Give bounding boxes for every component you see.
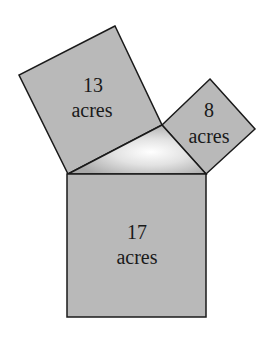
label-17-number: 17 xyxy=(127,221,147,243)
label-17-unit: acres xyxy=(116,246,157,268)
label-8-number: 8 xyxy=(204,99,214,121)
pythagorean-diagram: 13 acres 8 acres 17 acres xyxy=(0,0,271,339)
label-13-number: 13 xyxy=(83,74,103,96)
label-13-unit: acres xyxy=(71,99,112,121)
label-8-unit: acres xyxy=(188,125,229,147)
